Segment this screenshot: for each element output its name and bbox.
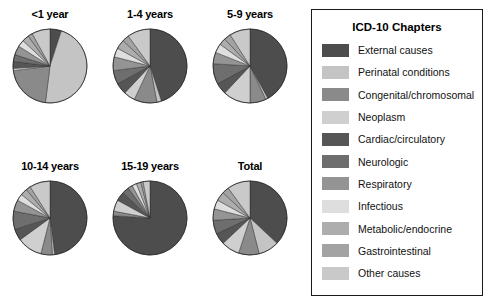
legend-list: External causesPerinatal conditionsConge… xyxy=(312,39,482,284)
pie-panel-15-19-years: 15-19 years xyxy=(100,152,200,302)
legend-color-swatch xyxy=(322,66,349,79)
legend: ICD-10 Chapters External causesPerinatal… xyxy=(311,9,483,296)
legend-color-swatch xyxy=(322,44,349,57)
pie-title: 1-4 years xyxy=(100,8,200,21)
legend-item: Infectious xyxy=(322,195,482,217)
pie-chart-10-14-years xyxy=(12,180,88,256)
legend-color-swatch xyxy=(322,244,349,257)
legend-item-label: Metabolic/endocrine xyxy=(358,223,452,235)
legend-item-label: Neoplasm xyxy=(358,111,405,123)
pie-panel-grid: <1 year 1-4 years 5-9 years 10-14 years … xyxy=(0,0,300,305)
pie-svg xyxy=(12,180,88,256)
legend-item-label: Neurologic xyxy=(358,156,408,168)
pie-chart-15-19-years xyxy=(112,180,188,256)
legend-item: Cardiac/circulatory xyxy=(322,128,482,150)
pie-slice xyxy=(13,66,50,103)
pie-title: <1 year xyxy=(0,8,100,21)
legend-item-label: Other causes xyxy=(358,267,420,279)
legend-color-swatch xyxy=(322,222,349,235)
pie-chart-5-9-years xyxy=(212,28,288,104)
pie-svg xyxy=(112,180,188,256)
pie-svg xyxy=(12,28,88,104)
legend-item: External causes xyxy=(322,39,482,61)
pie-svg xyxy=(212,28,288,104)
legend-item: Other causes xyxy=(322,262,482,284)
pie-title: 10-14 years xyxy=(0,160,100,173)
pie-title: 15-19 years xyxy=(100,160,200,173)
legend-title: ICD-10 Chapters xyxy=(312,21,482,33)
legend-item-label: Infectious xyxy=(358,200,403,212)
legend-item-label: Perinatal conditions xyxy=(358,66,450,78)
legend-item: Metabolic/endocrine xyxy=(322,217,482,239)
pie-panel-10-14-years: 10-14 years xyxy=(0,152,100,302)
legend-color-swatch xyxy=(322,133,349,146)
pie-chart-1-4-years xyxy=(112,28,188,104)
legend-color-swatch xyxy=(322,177,349,190)
pie-panel-total: Total xyxy=(200,152,300,302)
legend-item-label: Gastrointestinal xyxy=(358,245,431,257)
legend-item: Neurologic xyxy=(322,150,482,172)
pie-chart-under-1-year xyxy=(12,28,88,104)
legend-item: Gastrointestinal xyxy=(322,240,482,262)
legend-item-label: Respiratory xyxy=(358,178,412,190)
pie-title: 5-9 years xyxy=(200,8,300,21)
pie-chart-total xyxy=(212,180,288,256)
legend-color-swatch xyxy=(322,88,349,101)
pie-title: Total xyxy=(200,160,300,173)
legend-item-label: Congenital/chromosomal xyxy=(358,89,474,101)
legend-item-label: External causes xyxy=(358,44,433,56)
pie-panel-1-4-years: 1-4 years xyxy=(100,0,200,150)
legend-item-label: Cardiac/circulatory xyxy=(358,133,445,145)
legend-color-swatch xyxy=(322,200,349,213)
legend-item: Perinatal conditions xyxy=(322,61,482,83)
legend-item: Congenital/chromosomal xyxy=(322,84,482,106)
icd10-pie-chart-figure: <1 year 1-4 years 5-9 years 10-14 years … xyxy=(0,0,492,305)
legend-color-swatch xyxy=(322,111,349,124)
legend-item: Respiratory xyxy=(322,173,482,195)
legend-color-swatch xyxy=(322,155,349,168)
pie-slice xyxy=(50,181,87,255)
pie-panel-under-1-year: <1 year xyxy=(0,0,100,150)
legend-item: Neoplasm xyxy=(322,106,482,128)
pie-panel-5-9-years: 5-9 years xyxy=(200,0,300,150)
legend-color-swatch xyxy=(322,267,349,280)
pie-svg xyxy=(112,28,188,104)
pie-svg xyxy=(212,180,288,256)
